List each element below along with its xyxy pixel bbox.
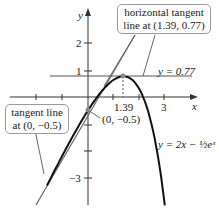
y-axis-label: y	[78, 9, 83, 21]
function-label: y = 2x − ½eˣ	[158, 138, 215, 150]
tick-3: 3	[161, 101, 167, 113]
callout-horizontal-tangent: horizontal tangent line at (1.39, 0.77)	[117, 4, 211, 34]
callout-text: line at (1.39, 0.77)	[122, 19, 206, 32]
tick-y2: 2	[76, 37, 82, 49]
tick-139: 1.39	[114, 101, 133, 113]
tick-yneg3: −3	[69, 172, 81, 184]
callout-tangent-line: tangent line at (0, −0.5)	[5, 104, 69, 134]
tick-y1: 1	[76, 65, 82, 77]
hline-label: y = 0.77	[158, 65, 195, 77]
x-axis-label: x	[192, 100, 197, 112]
callout-text: tangent line	[10, 106, 64, 119]
figure: y x −2 1.39 3 1 2 −3 y = 0.77 (0, −0.5) …	[0, 0, 219, 211]
callout-text: at (0, −0.5)	[10, 119, 64, 132]
point-label: (0, −0.5)	[102, 113, 140, 125]
callout-text: horizontal tangent	[122, 6, 206, 19]
